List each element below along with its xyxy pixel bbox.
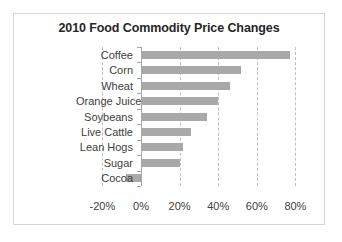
category-label-cocoa: Cocoa — [76, 172, 133, 184]
bar-corn — [141, 66, 241, 74]
category-label-orange-juice: Orange Juice — [76, 95, 133, 107]
x-tick-label-0: 0% — [133, 200, 149, 212]
plot-area: CoffeeCornWheatOrange JuiceSoybeansLive … — [14, 47, 326, 195]
category-label-sugar: Sugar — [76, 157, 133, 169]
x-tick-label--20: -20% — [90, 200, 116, 212]
category-label-soybeans: Soybeans — [76, 111, 133, 123]
gridline-80 — [295, 47, 296, 186]
axis-tick-mark — [137, 186, 141, 187]
x-tick-label-60: 60% — [246, 200, 268, 212]
x-axis-tick-labels: -20%0%20%40%60%80% — [14, 200, 326, 220]
x-tick-label-40: 40% — [207, 200, 229, 212]
category-label-wheat: Wheat — [76, 80, 133, 92]
bar-soybeans — [141, 113, 207, 121]
x-tick-label-80: 80% — [284, 200, 306, 212]
category-label-live-cattle: Live Cattle — [76, 126, 133, 138]
bar-sugar — [141, 159, 180, 167]
x-tick-label-20: 20% — [169, 200, 191, 212]
chart-container: 2010 Food Commodity Price Changes Coffee… — [13, 13, 325, 225]
category-label-coffee: Coffee — [76, 49, 133, 61]
bar-wheat — [141, 82, 230, 90]
category-label-lean-hogs: Lean Hogs — [76, 141, 133, 153]
bar-lean-hogs — [141, 143, 183, 151]
bar-coffee — [141, 51, 290, 59]
chart-title: 2010 Food Commodity Price Changes — [14, 21, 324, 35]
gridline-60 — [257, 47, 258, 186]
category-label-corn: Corn — [76, 64, 133, 76]
bar-orange-juice — [141, 97, 218, 105]
bar-live-cattle — [141, 128, 191, 136]
